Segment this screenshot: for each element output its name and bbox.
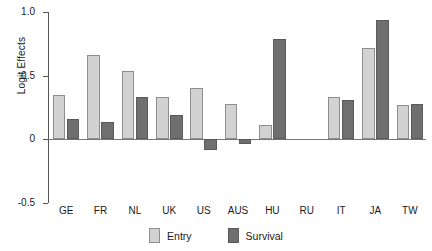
bar-group-nl [118, 12, 152, 203]
bar-group-fr [83, 12, 117, 203]
bar-fr-survival [101, 122, 114, 140]
bar-us-entry [190, 88, 203, 139]
bar-group-us [186, 12, 220, 203]
x-label-us: US [197, 205, 211, 216]
bar-group-it [324, 12, 358, 203]
bar-hu-entry [259, 125, 272, 139]
bar-uk-survival [170, 115, 183, 139]
bar-group-hu [255, 12, 289, 203]
entry-swatch-icon [149, 228, 160, 243]
bar-it-survival [342, 100, 355, 139]
x-axis-category-labels: GEFRNLUKUSAUSHURUITJATW [49, 205, 426, 221]
x-label-nl: NL [129, 205, 142, 216]
bar-chart-figure: Logit Effects 1.00.50-0.5 GEFRNLUKUSAUSH… [0, 0, 432, 251]
bar-group-aus [221, 12, 255, 203]
y-tick-label-1: 0.5 [21, 71, 35, 81]
x-label-fr: FR [94, 205, 107, 216]
x-label-tw: TW [402, 205, 418, 216]
legend-item-entry: Entry [149, 228, 192, 243]
y-tick-label-0: 1.0 [21, 7, 35, 17]
bar-ge-entry [53, 95, 66, 140]
legend-item-survival: Survival [228, 228, 283, 243]
x-label-ge: GE [59, 205, 73, 216]
y-tick-0: 1.0 [43, 12, 48, 13]
bar-nl-entry [122, 71, 135, 140]
bar-us-survival [204, 139, 217, 149]
survival-swatch-icon [228, 228, 239, 243]
bar-aus-survival [239, 139, 252, 144]
bar-ja-entry [362, 48, 375, 140]
x-label-uk: UK [162, 205, 176, 216]
bar-ja-survival [376, 20, 389, 140]
plot-area: 1.00.50-0.5 [48, 12, 426, 203]
bar-it-entry [328, 97, 341, 139]
bar-group-tw [393, 12, 427, 203]
x-label-ja: JA [370, 205, 382, 216]
y-tick-1: 0.5 [43, 76, 48, 77]
bar-uk-entry [156, 97, 169, 139]
bar-fr-entry [87, 55, 100, 139]
x-label-hu: HU [265, 205, 279, 216]
bar-group-uk [152, 12, 186, 203]
y-tick-label-3: -0.5 [18, 198, 35, 208]
bar-tw-survival [411, 104, 424, 140]
bar-group-ru [290, 12, 324, 203]
x-label-aus: AUS [228, 205, 249, 216]
legend-label-survival: Survival [246, 230, 283, 242]
y-tick-3: -0.5 [43, 203, 48, 204]
y-tick-label-2: 0 [29, 134, 35, 144]
bar-ge-survival [67, 119, 80, 139]
x-label-ru: RU [299, 205, 313, 216]
bar-aus-entry [225, 104, 238, 140]
bar-nl-survival [136, 97, 149, 139]
legend-label-entry: Entry [167, 230, 192, 242]
y-axis-label: Logit Effects [16, 11, 27, 121]
bar-series-container [49, 12, 426, 203]
bar-tw-entry [397, 105, 410, 139]
bar-hu-survival [273, 39, 286, 140]
bar-group-ge [49, 12, 83, 203]
chart-legend: Entry Survival [0, 228, 432, 243]
bar-group-ja [358, 12, 392, 203]
x-label-it: IT [337, 205, 346, 216]
